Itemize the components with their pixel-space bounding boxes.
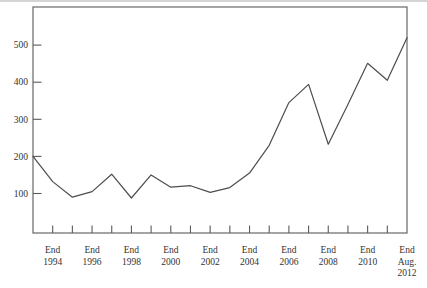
x-label-1998: End1998 bbox=[122, 245, 141, 267]
y-tick-label-400: 400 bbox=[14, 77, 29, 87]
y-axis-labels: 100200300400500 bbox=[14, 40, 29, 198]
data-line-series-1 bbox=[33, 38, 407, 198]
scan-edge-artifact bbox=[0, 0, 427, 2]
x-label-2012: EndAug.2012 bbox=[398, 245, 417, 278]
x-label-2002: End2002 bbox=[201, 245, 220, 267]
y-tick-label-200: 200 bbox=[14, 152, 29, 162]
x-axis-labels: End1994End1996End1998End2000End2002End20… bbox=[43, 245, 417, 278]
x-label-2008: End2008 bbox=[319, 245, 338, 267]
chart-svg: 100200300400500 End1994End1996End1998End… bbox=[0, 0, 427, 288]
x-label-2010: End2010 bbox=[358, 245, 377, 267]
x-axis-ticks bbox=[53, 226, 388, 234]
line-chart-figure: 100200300400500 End1994End1996End1998End… bbox=[0, 0, 427, 288]
plot-box bbox=[33, 7, 407, 233]
data-series bbox=[33, 38, 407, 198]
y-tick-label-300: 300 bbox=[14, 115, 29, 125]
x-label-2006: End2006 bbox=[279, 245, 298, 267]
x-label-2004: End2004 bbox=[240, 245, 259, 267]
y-tick-label-100: 100 bbox=[14, 189, 29, 199]
x-label-1996: End1996 bbox=[83, 245, 102, 267]
y-tick-label-500: 500 bbox=[14, 40, 29, 50]
x-label-2000: End2000 bbox=[161, 245, 180, 267]
x-label-1994: End1994 bbox=[43, 245, 62, 267]
y-axis-ticks bbox=[33, 45, 42, 193]
